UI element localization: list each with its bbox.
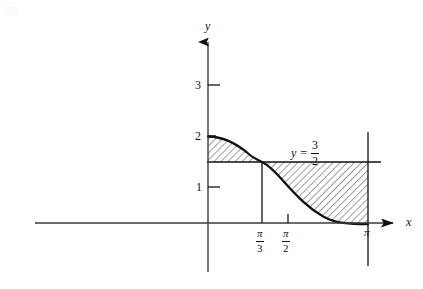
x-axis-label: x (406, 216, 411, 228)
denominator: 3 (256, 242, 264, 255)
equation-variable: y (291, 147, 296, 159)
y-tick-label-3: 3 (195, 79, 201, 91)
y-tick-label-1: 1 (196, 181, 202, 193)
denominator: 2 (282, 242, 290, 255)
pi-glyph: π (282, 228, 290, 242)
y-tick-label-2: 2 (195, 130, 201, 142)
pi-glyph: π (256, 228, 264, 242)
x-tick-label-pi-over-2: π 2 (282, 228, 290, 254)
plot-canvas (0, 0, 423, 289)
y-axis-label: y (205, 20, 210, 32)
denominator: 2 (311, 154, 319, 168)
x-tick-label-pi-over-3: π 3 (256, 228, 264, 254)
x-tick-label-pi: π (364, 227, 370, 238)
shaded-region-lower (262, 162, 368, 224)
numerator: 3 (311, 139, 319, 154)
equals-sign: = (300, 147, 307, 159)
line-equation-label: y = 3 2 (291, 139, 319, 167)
math-figure: y x 3 2 1 π 3 π 2 π y = 3 2 (0, 0, 423, 289)
